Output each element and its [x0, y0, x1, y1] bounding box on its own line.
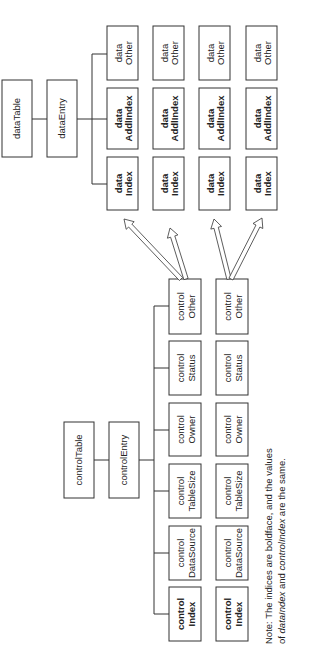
label-line-1: data	[252, 43, 263, 62]
label-line-1: data	[159, 108, 170, 128]
label-line-1: data	[159, 173, 170, 193]
label-line-1: control	[222, 598, 233, 630]
label-line-2: Other	[215, 41, 226, 65]
note-text: are the same.	[276, 458, 287, 519]
control-status-label: controlStatus	[175, 354, 197, 383]
control-other-label: controlOther	[222, 292, 244, 321]
control-other-label: controlOther	[175, 292, 197, 321]
diagram-canvas: dataTable dataEntry dataIndexdataAddlInd…	[0, 0, 309, 660]
data-other-label: dataOther	[159, 41, 181, 65]
label-line-2: AddlIndex	[215, 95, 226, 142]
note-text: of	[276, 633, 287, 644]
label-line-2: AddlIndex	[123, 95, 134, 142]
control-owner-label: controlOwner	[222, 415, 244, 444]
label-line-2: Other	[169, 41, 180, 65]
data-index-label: dataIndex	[113, 170, 135, 196]
label-line-1: data	[205, 43, 216, 62]
label-line-2: Index	[169, 170, 180, 196]
label-line-2: Other	[186, 295, 197, 319]
label-line-1: control	[175, 598, 186, 630]
label-line-1: data	[205, 108, 216, 128]
data-table-label: dataTable	[11, 98, 22, 139]
label-line-1: control	[175, 292, 186, 321]
data-table-group: dataTable dataEntry	[2, 54, 107, 184]
data-index-label: dataIndex	[159, 170, 181, 196]
label-line-1: control	[175, 477, 186, 506]
control-index-label: controlIndex	[175, 598, 197, 630]
index-arrow-icon	[124, 219, 183, 281]
data-entries: dataIndexdataAddlIndexdataOtherdataIndex…	[107, 26, 277, 210]
label-line-2: TableSize	[186, 470, 197, 511]
label-line-2: AddlIndex	[169, 95, 180, 142]
data-other-label: dataOther	[113, 41, 135, 65]
label-line-1: control	[222, 477, 233, 506]
label-line-2: DataSource	[186, 528, 197, 578]
label-line-2: Index	[233, 601, 244, 627]
label-line-1: control	[222, 415, 233, 444]
control-entry-label: controlEntry	[118, 434, 129, 485]
label-line-1: control	[175, 539, 186, 568]
data-other-label: dataOther	[252, 41, 274, 65]
label-line-2: TableSize	[233, 470, 244, 511]
label-line-1: control	[175, 354, 186, 383]
label-line-2: DataSource	[233, 528, 244, 578]
index-arrow-icon	[229, 218, 263, 280]
label-line-1: control	[175, 415, 186, 444]
index-arrow-icon	[211, 219, 231, 280]
label-line-1: data	[113, 108, 124, 128]
control-status-label: controlStatus	[222, 354, 244, 383]
label-line-1: data	[113, 173, 124, 193]
note-line-2: of dataIndex and controlIndex are the sa…	[276, 458, 287, 644]
label-line-1: data	[205, 173, 216, 193]
label-line-2: Other	[123, 41, 134, 65]
label-line-2: Status	[186, 354, 197, 381]
label-line-1: data	[252, 173, 263, 193]
label-line-2: Index	[215, 170, 226, 196]
label-line-2: Other	[262, 41, 273, 65]
label-line-2: Index	[262, 170, 273, 196]
label-line-1: control	[222, 539, 233, 568]
label-line-1: data	[113, 43, 124, 62]
data-index-label: dataIndex	[205, 170, 227, 196]
label-line-1: control	[222, 354, 233, 383]
index-arrows	[124, 218, 263, 281]
label-line-2: Owner	[186, 416, 197, 444]
data-index-label: dataIndex	[252, 170, 274, 196]
label-line-1: data	[252, 108, 263, 128]
note-control-index: controlIndex	[276, 518, 287, 571]
data-entry-label: dataEntry	[56, 98, 67, 139]
label-line-1: data	[159, 43, 170, 62]
label-line-2: Index	[186, 601, 197, 627]
control-entries: controlIndexcontrolDataSourcecontrolTabl…	[154, 279, 248, 641]
control-table-label: controlTable	[73, 434, 84, 485]
control-owner-label: controlOwner	[175, 415, 197, 444]
note-text: and	[276, 571, 287, 592]
control-index-label: controlIndex	[222, 598, 244, 630]
label-line-2: Owner	[233, 416, 244, 444]
label-line-1: control	[222, 292, 233, 321]
note-data-index: dataIndex	[276, 590, 287, 633]
control-table-group: controlTable controlEntry	[64, 306, 154, 614]
label-line-2: Status	[233, 354, 244, 381]
label-line-2: Index	[123, 170, 134, 196]
note-line-1: Note: The indices are boldface, and the …	[263, 448, 274, 644]
data-other-label: dataOther	[205, 41, 227, 65]
label-line-2: AddlIndex	[262, 95, 273, 142]
label-line-2: Other	[233, 295, 244, 319]
note: Note: The indices are boldface, and the …	[263, 448, 287, 644]
